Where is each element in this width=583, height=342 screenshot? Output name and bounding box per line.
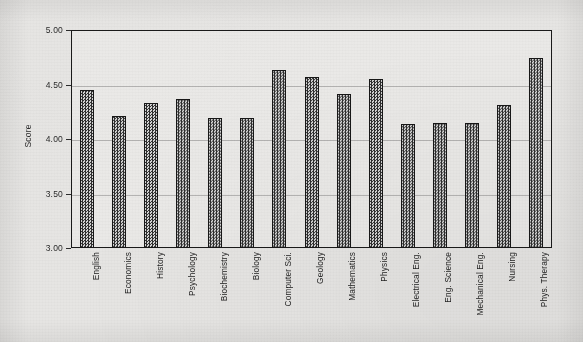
bar	[176, 99, 190, 248]
x-axis-tick-label: Biology	[251, 252, 261, 280]
bar	[529, 58, 543, 248]
bar	[272, 70, 286, 248]
x-axis-labels: EnglishEconomicsHistoryPsychologyBiochem…	[71, 252, 552, 342]
y-axis-tick-label: 3.50	[23, 189, 63, 199]
x-axis-tick-label: Geology	[315, 252, 325, 284]
x-axis-tick-label: Mechanical Eng.	[475, 252, 485, 316]
bar	[240, 118, 254, 248]
bar	[80, 90, 94, 248]
bar-chart-figure: Score 5.004.504.003.503.00 EnglishEconom…	[0, 0, 583, 342]
bar	[497, 105, 511, 248]
bar	[208, 118, 222, 248]
x-axis-tick-label: Economics	[123, 252, 133, 294]
y-axis-tick-label: 3.00	[23, 243, 63, 253]
x-axis-tick-label: Eng. Science	[443, 252, 453, 303]
x-axis-tick-label: Physics	[379, 252, 389, 282]
x-axis-tick-label: English	[91, 252, 101, 280]
y-axis-tick-label: 4.50	[23, 80, 63, 90]
y-axis-tick-mark	[66, 248, 71, 249]
bar	[433, 123, 447, 248]
x-axis-tick-label: Psychology	[187, 252, 197, 296]
x-axis-tick-label: Mathematics	[347, 252, 357, 301]
bar	[305, 77, 319, 248]
bars-layer	[71, 30, 552, 248]
y-axis-tick-label: 4.00	[23, 134, 63, 144]
y-axis-tick-label: 5.00	[23, 25, 63, 35]
x-axis-tick-label: Electrical Eng.	[411, 252, 421, 307]
bar	[144, 103, 158, 248]
bar	[401, 124, 415, 248]
bar	[337, 94, 351, 248]
x-axis-tick-label: Nursing	[507, 252, 517, 282]
bar	[112, 116, 126, 248]
x-axis-tick-label: Biochemistry	[219, 252, 229, 301]
bar	[465, 123, 479, 248]
bar	[369, 79, 383, 248]
x-axis-tick-label: Computer Sci.	[283, 252, 293, 307]
x-axis-tick-label: History	[155, 252, 165, 279]
x-axis-tick-label: Phys. Therapy	[539, 252, 549, 307]
